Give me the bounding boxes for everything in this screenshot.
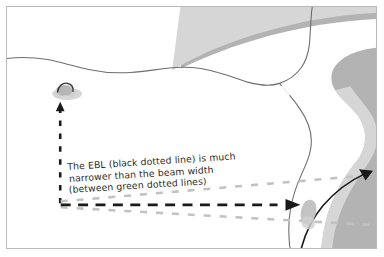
vertical-ebl-dashed-line xyxy=(56,102,65,204)
upper-beam-width-dashed-line xyxy=(61,175,376,202)
own-ship-target-blob xyxy=(52,83,82,100)
figure-frame: The EBL (black dotted line) is much narr… xyxy=(6,6,377,249)
diagram-root: The EBL (black dotted line) is much narr… xyxy=(0,0,384,257)
shoreline-speckle-fringe xyxy=(7,62,302,100)
landfall-echo-blob xyxy=(301,200,317,230)
radar-scene xyxy=(7,7,376,248)
